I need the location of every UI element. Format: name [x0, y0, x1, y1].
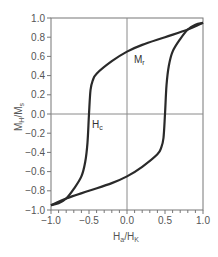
axis-ticks [47, 18, 203, 214]
annotation-mr: Mr [134, 54, 145, 66]
y-tick-label: 0.4 [31, 70, 45, 81]
tick-labels: 1.00.80.60.40.20.0−0.2−0.4−0.6−0.8−1.0−1… [25, 13, 210, 227]
y-tick-label: −0.6 [25, 166, 45, 177]
y-tick-label: 1.0 [31, 13, 45, 24]
y-tick-label: 0.2 [31, 89, 45, 100]
y-tick-label: 0.0 [31, 109, 45, 120]
zero-lines [51, 18, 203, 210]
y-tick-label: 0.8 [31, 32, 45, 43]
y-tick-label: −1.0 [25, 205, 45, 216]
y-tick-label: −0.8 [25, 185, 45, 196]
x-tick-label: 0.5 [158, 215, 172, 226]
y-tick-label: −0.4 [25, 147, 45, 158]
hysteresis-chart: 1.00.80.60.40.20.0−0.2−0.4−0.6−0.8−1.0−1… [0, 0, 218, 257]
y-axis-title: MH/Ms [13, 102, 25, 131]
x-tick-label: −1.0 [41, 215, 61, 226]
x-axis-title: Ha/HK [113, 231, 139, 243]
annotation-hc: Hc [92, 119, 103, 131]
x-tick-label: 1.0 [196, 215, 210, 226]
x-tick-label: 0.0 [120, 215, 134, 226]
y-tick-label: 0.6 [31, 51, 45, 62]
y-tick-label: −0.2 [25, 128, 45, 139]
x-tick-label: −0.5 [79, 215, 99, 226]
